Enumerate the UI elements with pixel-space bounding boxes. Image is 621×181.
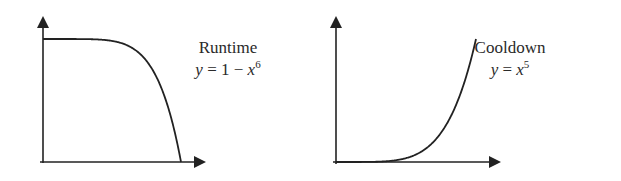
runtime-equation: y = 1 − x6 — [180, 58, 276, 80]
cooldown-equation: y = x5 — [462, 58, 558, 80]
runtime-title: Runtime — [180, 38, 276, 58]
runtime-legend: Runtime y = 1 − x6 — [180, 38, 276, 80]
cooldown-legend: Cooldown y = x5 — [462, 38, 558, 80]
charts-canvas — [0, 0, 621, 181]
cooldown-x-arrow-icon — [489, 156, 501, 168]
cooldown-curve — [336, 39, 476, 162]
cooldown-y-arrow-icon — [330, 16, 342, 28]
cooldown-title: Cooldown — [462, 38, 558, 58]
runtime-x-arrow-icon — [194, 156, 206, 168]
runtime-y-arrow-icon — [37, 16, 49, 28]
runtime-curve — [43, 39, 181, 162]
